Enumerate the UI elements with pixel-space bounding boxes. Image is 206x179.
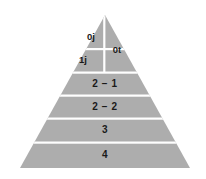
tier-label-4: 4: [102, 150, 108, 160]
tier-label-2-2: 2 − 2: [92, 102, 118, 112]
pyramid-diagram: 0j 1j 0t 2 − 1 2 − 2 3 4: [0, 0, 206, 179]
tier-label-0j: 0j: [87, 32, 95, 42]
tier-label-0t: 0t: [113, 45, 122, 55]
tier-label-2-1: 2 − 1: [92, 79, 118, 89]
apex-vertical-divider: [103, 0, 105, 72]
tier-divider-4: [0, 118, 206, 120]
tier-divider-1: [0, 48, 206, 50]
tier-label-3: 3: [102, 125, 108, 135]
tier-label-1j: 1j: [79, 55, 87, 65]
tier-divider-2: [0, 72, 206, 74]
tier-divider-3: [0, 95, 206, 97]
tier-divider-5: [0, 142, 206, 144]
